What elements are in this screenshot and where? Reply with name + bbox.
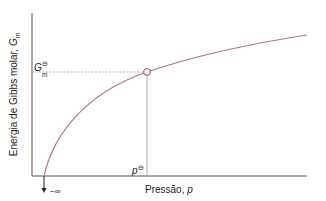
reference-point-marker [144,69,151,76]
gibbs-curve [44,35,307,176]
p-reference-label: p⊖ [132,164,144,176]
chart-canvas [0,0,326,201]
y-axis-label: Energia de Gibbs molar, Gm [8,15,21,175]
arrow-head-icon [42,188,47,193]
x-axis-label: Pressão, p [145,184,193,195]
gm-reference-label: G⊖m [34,61,48,73]
neg-infinity-label: −∞ [50,187,60,196]
